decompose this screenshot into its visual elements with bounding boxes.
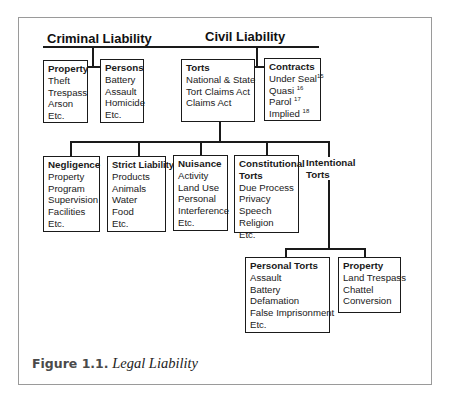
box-title: Negligence [48, 159, 96, 171]
civil-liability-heading: Civil Liability [205, 30, 285, 44]
list-item: Water [112, 194, 162, 206]
strict-liability-box: Strict Liability Products Animals Water … [107, 156, 166, 232]
list-item: Parol 17 [269, 96, 317, 108]
negligence-drop-line [70, 141, 72, 157]
list-item: Etc. [48, 218, 96, 230]
personal-torts-box: Personal Torts Assault Battery Defamatio… [245, 257, 330, 333]
footnote-ref: 17 [294, 96, 301, 102]
criminal-persons-box: Persons Battery Assault Homicide Etc. [100, 59, 144, 123]
list-item: Speech [239, 205, 295, 217]
box-title: Torts [186, 62, 251, 74]
list-item: Products [112, 171, 162, 183]
list-item: Tort Claims Act [186, 86, 251, 98]
list-item: Facilities [48, 206, 96, 218]
list-item: Conversion [343, 295, 397, 307]
figure-number: Figure 1.1. [32, 356, 109, 371]
box-title: Constitutional [239, 158, 295, 170]
negligence-box: Negligence Property Program Supervision … [43, 156, 100, 232]
item-label: Parol [269, 96, 291, 107]
list-item: Personal [178, 193, 224, 205]
list-item: Land Use [178, 182, 224, 194]
list-item: National & State [186, 74, 251, 86]
list-item: Religion [239, 217, 295, 229]
list-item: Interference [178, 205, 224, 217]
label-line2: Torts [306, 169, 356, 181]
list-item: Etc. [48, 110, 84, 122]
list-item: Arson [48, 98, 84, 110]
list-item: Under Seal15 [269, 73, 317, 85]
box-title: Property [48, 63, 84, 75]
civil-contracts-box: Contracts Under Seal15 Quasi 16 Parol 17… [264, 58, 321, 121]
box-title: Strict Liability [112, 159, 162, 171]
criminal-connector-horizontal [87, 66, 101, 68]
criminal-liability-heading: Criminal Liability [47, 32, 152, 46]
item-label: Quasi [269, 85, 294, 96]
list-item: Assault [250, 272, 326, 284]
list-item: Privacy [239, 193, 295, 205]
box-title: Contracts [269, 61, 317, 73]
box-title-line2: Torts [239, 170, 295, 182]
list-item: Trespass [48, 87, 84, 99]
list-item: Theft [48, 75, 84, 87]
list-item: Property [48, 171, 96, 183]
list-item: Land Trespass [343, 272, 397, 284]
intentional-bus-line [285, 248, 365, 250]
list-item: Program [48, 183, 96, 195]
box-title: Persons [105, 62, 140, 74]
list-item: Battery [250, 284, 326, 296]
label-line1: Intentional [306, 157, 356, 169]
list-item: Etc. [178, 217, 224, 229]
list-item: Etc. [239, 229, 295, 241]
top-rule-line [43, 46, 319, 48]
list-item: Activity [178, 170, 224, 182]
box-title: Nuisance [178, 158, 224, 170]
list-item: False Imprisonment [250, 307, 326, 319]
civil-torts-box: Torts National & State Tort Claims Act C… [181, 59, 255, 122]
list-item: Animals [112, 183, 162, 195]
item-label: Under Seal [269, 73, 317, 84]
item-label: Implied [269, 108, 300, 119]
list-item: Battery [105, 74, 140, 86]
footnote-ref: 15 [317, 73, 324, 79]
list-item: Etc. [105, 109, 140, 121]
box-title: Personal Torts [250, 260, 326, 272]
criminal-connector-vertical [92, 46, 94, 67]
intentional-torts-label: Intentional Torts [306, 157, 357, 180]
strict-liability-drop-line [138, 141, 140, 157]
list-item: Etc. [250, 319, 326, 331]
footnote-ref: 16 [297, 85, 304, 91]
footnote-ref: 18 [303, 108, 310, 114]
criminal-property-box: Property Theft Trespass Arson Etc. [43, 60, 88, 123]
list-item: Quasi 16 [269, 85, 317, 97]
list-item: Implied 18 [269, 108, 317, 120]
property-torts-box: Property Land Trespass Chattel Conversio… [338, 257, 401, 313]
list-item: Chattel [343, 284, 397, 296]
civil-connector-vertical [256, 46, 258, 67]
list-item: Food [112, 206, 162, 218]
box-title: Property [343, 260, 397, 272]
list-item: Etc. [112, 218, 162, 230]
torts-down-connector [219, 122, 221, 142]
list-item: Due Process [239, 182, 295, 194]
list-item: Supervision [48, 194, 96, 206]
list-item: Defamation [250, 295, 326, 307]
list-item: Assault [105, 86, 140, 98]
nuisance-box: Nuisance Activity Land Use Personal Inte… [173, 155, 228, 231]
list-item: Homicide [105, 97, 140, 109]
figure-caption: Figure 1.1. Legal Liability [32, 355, 198, 372]
figure-title: Legal Liability [112, 355, 198, 371]
constitutional-torts-box: Constitutional Torts Due Process Privacy… [234, 155, 299, 233]
list-item: Claims Act [186, 97, 251, 109]
